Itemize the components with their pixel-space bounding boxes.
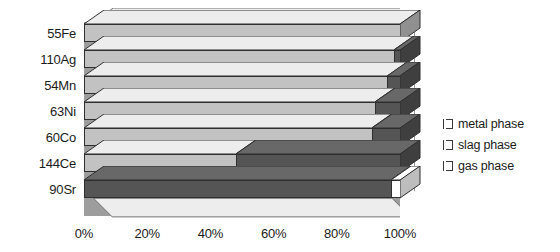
x-axis-tick-label: 0% (75, 226, 93, 241)
legend-swatch-fill (444, 161, 446, 180)
legend-item[interactable]: gas phase (443, 157, 524, 175)
chart-legend: metal phaseslag phasegas phase (443, 115, 524, 178)
legend-item[interactable]: metal phase (443, 115, 524, 133)
x-axis-tick-label: 60% (261, 226, 286, 241)
legend-swatch-icon (443, 140, 453, 150)
legend-swatch-icon (443, 119, 453, 129)
legend-item[interactable]: slag phase (443, 136, 524, 154)
legend-label: gas phase (458, 159, 514, 173)
x-axis-tick-label: 80% (324, 226, 349, 241)
legend-swatch-fill (444, 140, 446, 159)
legend-label: slag phase (458, 138, 516, 152)
stacked-bar-chart: 55Fe110Ag54Mn63Ni60Co144Ce90Sr 0%20%40%6… (0, 0, 560, 252)
legend-swatch-fill (444, 119, 446, 138)
x-axis-tick-label: 40% (198, 226, 223, 241)
legend-swatch-icon (443, 161, 453, 171)
legend-label: metal phase (458, 117, 524, 131)
x-axis-tick-label: 100% (384, 226, 416, 241)
x-axis-tick-label: 20% (134, 226, 159, 241)
